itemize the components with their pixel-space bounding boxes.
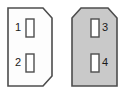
right-connector[interactable]: 3 4: [72, 8, 117, 86]
pin-slot-3[interactable]: [91, 19, 99, 37]
pin-label-2: 2: [15, 56, 21, 68]
pin-label-4: 4: [102, 56, 108, 68]
pin-label-3: 3: [102, 21, 108, 33]
left-connector[interactable]: 1 2: [8, 8, 52, 86]
pin-slot-2[interactable]: [26, 54, 34, 72]
diagram-canvas: 1 2 3 4: [0, 0, 126, 94]
pin-slot-1[interactable]: [26, 19, 34, 37]
connector-pinout-diagram: 1 2 3 4: [0, 0, 126, 94]
pin-slot-4[interactable]: [91, 54, 99, 72]
pin-label-1: 1: [15, 21, 21, 33]
